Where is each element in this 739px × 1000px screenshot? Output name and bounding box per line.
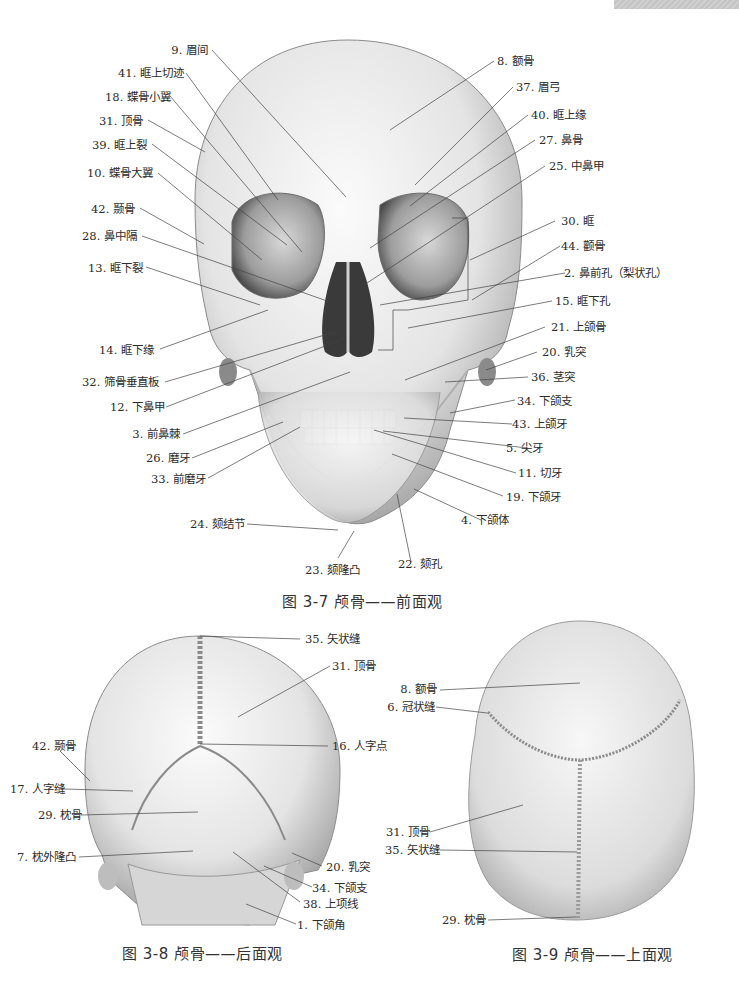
label-sagittal-suture: 35. 矢状缝 — [305, 632, 360, 646]
label-supraorbital-margin: 40. 眶上缘 — [531, 108, 586, 122]
label-mandibular-angle: 1. 下颌角 — [297, 918, 345, 932]
label-zygomatic-bone: 44. 颧骨 — [561, 239, 605, 253]
label-maxillary-teeth: 43. 上颌牙 — [512, 417, 567, 431]
skull-posterior-view — [85, 636, 340, 925]
label-lesser-wing-sphenoid: 18. 蝶骨小翼 — [105, 90, 171, 104]
label-frontal-bone: 8. 额骨 — [400, 682, 437, 696]
label-frontal-bone: 8. 额骨 — [497, 54, 534, 68]
label-mandibular-ramus: 34. 下颌支 — [517, 394, 572, 408]
label-premolars: 33. 前磨牙 — [151, 472, 206, 486]
label-inferior-orbital-fissure: 13. 眶下裂 — [88, 261, 143, 275]
label-infraorbital-margin: 14. 眶下缘 — [99, 343, 154, 357]
label-inferior-nasal-concha: 12. 下鼻甲 — [110, 400, 165, 414]
label-canine: 5. 尖牙 — [506, 441, 543, 455]
label-lambda: 16. 人字点 — [332, 739, 387, 753]
label-occipital-bone: 29. 枕骨 — [442, 913, 486, 927]
skull-anterior-view — [195, 40, 522, 524]
label-mastoid-process: 20. 乳突 — [542, 345, 586, 359]
label-lambdoid-suture: 17. 人字缝 — [10, 782, 65, 796]
label-parietal-bone: 31. 顶骨 — [99, 114, 143, 128]
skull-superior-view — [469, 621, 695, 920]
label-mental-tubercle: 24. 颏结节 — [190, 517, 245, 531]
caption-fig-3-7: 图 3-7 颅骨——前面观 — [282, 590, 443, 611]
label-temporal-bone: 42. 颞骨 — [91, 202, 135, 216]
label-mastoid-process: 20. 乳突 — [326, 860, 370, 874]
label-superior-nuchal-line: 38. 上项线 — [303, 897, 358, 911]
label-nasal-septum: 28. 鼻中隔 — [82, 229, 137, 243]
label-superior-orbital-fissure: 39. 眶上裂 — [92, 138, 147, 152]
label-infraorbital-foramen: 15. 眶下孔 — [555, 294, 610, 308]
label-parietal-bone: 31. 顶骨 — [332, 659, 376, 673]
label-perpendicular-plate-ethmoid: 32. 筛骨垂直板 — [82, 375, 159, 389]
label-supraorbital-notch: 41. 眶上切迹 — [118, 66, 184, 80]
label-nasal-bone: 27. 鼻骨 — [539, 133, 583, 147]
label-mandibular-ramus: 34. 下颌支 — [312, 881, 367, 895]
label-mandibular-teeth: 19. 下颌牙 — [506, 490, 561, 504]
label-parietal-bone: 31. 顶骨 — [386, 825, 430, 839]
label-mental-foramen: 22. 颏孔 — [398, 557, 442, 571]
label-incisors: 11. 切牙 — [518, 466, 562, 480]
label-middle-nasal-concha: 25. 中鼻甲 — [549, 159, 604, 173]
caption-fig-3-9: 图 3-9 颅骨——上面观 — [512, 943, 673, 964]
label-greater-wing-sphenoid: 10. 蝶骨大翼 — [87, 166, 153, 180]
label-maxilla: 21. 上颌骨 — [551, 320, 606, 334]
label-superciliary-arch: 37. 眉弓 — [516, 80, 560, 94]
label-coronal-suture: 6. 冠状缝 — [387, 700, 435, 714]
label-mandible-body: 4. 下颌体 — [461, 513, 509, 527]
label-mental-protuberance: 23. 颏隆凸 — [305, 563, 360, 577]
label-piriform-aperture: 2. 鼻前孔（梨状孔） — [564, 266, 667, 280]
label-occipital-bone: 29. 枕骨 — [38, 808, 82, 822]
label-sagittal-suture: 35. 矢状缝 — [385, 843, 440, 857]
label-orbit: 30. 眶 — [561, 214, 594, 228]
label-anterior-nasal-spine: 3. 前鼻棘 — [132, 427, 180, 441]
label-external-occipital-protuberance: 7. 枕外隆凸 — [17, 850, 76, 864]
caption-fig-3-8: 图 3-8 颅骨——后面观 — [122, 942, 283, 963]
label-molars: 26. 磨牙 — [146, 451, 190, 465]
label-glabella: 9. 眉间 — [171, 43, 208, 57]
label-styloid-process: 36. 茎突 — [531, 370, 575, 384]
label-temporal-bone: 42. 颞骨 — [32, 739, 76, 753]
